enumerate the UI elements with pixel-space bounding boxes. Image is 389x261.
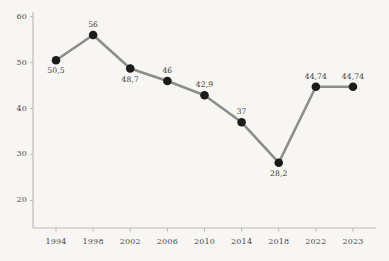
data-point-label: 37 bbox=[237, 107, 247, 116]
x-axis-tick-label: 2018 bbox=[268, 237, 289, 246]
x-axis-tick-label: 2014 bbox=[231, 237, 252, 246]
data-point-label: 28,2 bbox=[270, 169, 287, 178]
data-point-marker bbox=[312, 82, 321, 91]
data-point-marker bbox=[274, 158, 283, 167]
x-axis-tick-label: 2022 bbox=[305, 237, 326, 246]
x-axis-tick-label: 1994 bbox=[45, 237, 66, 246]
y-axis-tick-label: 60 bbox=[2, 12, 27, 21]
x-axis-tick-label: 2006 bbox=[157, 237, 178, 246]
y-axis-tick-label: 30 bbox=[2, 149, 27, 158]
y-axis-tick-label: 20 bbox=[2, 195, 27, 204]
data-point-marker bbox=[89, 31, 98, 40]
data-point-label: 48,7 bbox=[122, 75, 139, 84]
x-axis-tick-label: 1998 bbox=[83, 237, 104, 246]
line-chart: 2030405060 19941998200220062010201420182… bbox=[0, 0, 389, 261]
data-point-label: 50,5 bbox=[47, 66, 64, 75]
data-point-marker bbox=[52, 56, 61, 65]
x-axis-tick-label: 2002 bbox=[120, 237, 141, 246]
x-axis-tick-label: 2023 bbox=[342, 237, 363, 246]
chart-plot-area bbox=[0, 0, 389, 261]
data-point-marker bbox=[126, 64, 135, 73]
data-point-label: 44,74 bbox=[305, 72, 327, 81]
data-point-label: 56 bbox=[88, 20, 98, 29]
series-markers bbox=[52, 31, 358, 167]
chart-axes bbox=[33, 12, 376, 228]
data-point-label: 46 bbox=[162, 66, 172, 75]
data-point-marker bbox=[200, 91, 209, 100]
data-point-marker bbox=[163, 77, 172, 86]
x-axis-tick-label: 2010 bbox=[194, 237, 215, 246]
data-point-marker bbox=[237, 118, 246, 127]
data-point-label: 42,9 bbox=[196, 80, 213, 89]
y-axis-tick-label: 50 bbox=[2, 58, 27, 67]
data-point-label: 44,74 bbox=[342, 72, 364, 81]
data-point-marker bbox=[349, 82, 358, 91]
y-axis-tick-label: 40 bbox=[2, 104, 27, 113]
